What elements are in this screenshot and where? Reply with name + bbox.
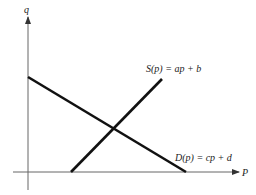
demand-label: D(p) = cp + d [174, 152, 233, 164]
supply-demand-diagram: q P S(p) = ap + b D(p) = cp + d [0, 0, 256, 195]
demand-line [28, 77, 186, 172]
y-axis-label: q [24, 4, 29, 15]
x-axis-label: P [241, 167, 248, 178]
supply-line [71, 79, 162, 172]
supply-label: S(p) = ap + b [146, 63, 201, 75]
